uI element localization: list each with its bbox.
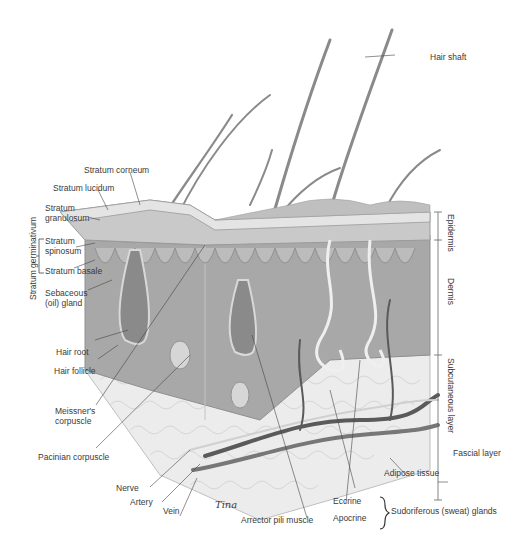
label-arrector-pili-muscle: Arrector pili muscle — [241, 515, 313, 525]
label-eccrine: Eccrine — [333, 496, 361, 506]
label-line-1: Stratum — [45, 203, 89, 213]
label-subcutaneous-layer: Subcutaneous layer — [446, 358, 456, 433]
layer-bracket — [434, 212, 442, 500]
label-stratum-lucidum: Stratum lucidum — [53, 183, 114, 193]
germinativum-bracket — [36, 237, 46, 277]
label-artery: Artery — [130, 497, 153, 507]
label-apocrine: Apocrine — [333, 513, 367, 523]
label-dermis: Dermis — [446, 278, 456, 305]
label-hair-shaft: Hair shaft — [430, 52, 466, 62]
label-stratum-spinosum: Stratum spinosum — [45, 236, 81, 256]
sudoriferous-brace — [380, 497, 389, 529]
label-line-1: Stratum — [45, 236, 81, 246]
label-meissners-corpuscle: Meissner's corpuscle — [55, 406, 95, 426]
label-line-2: (oil) gland — [45, 298, 88, 308]
label-nerve: Nerve — [116, 483, 139, 493]
pacinian-corpuscle — [231, 382, 249, 408]
artist-signature: Tina — [215, 500, 237, 510]
label-stratum-corneum: Stratum corneum — [84, 165, 149, 175]
label-stratum-basale: Stratum basale — [45, 266, 102, 276]
label-pacinian-corpuscle: Pacinian corpuscle — [38, 452, 109, 462]
label-hair-follicle: Hair follicle — [54, 366, 96, 376]
label-fascial-layer: Fascial layer — [453, 448, 501, 458]
label-line-2: granulosum — [45, 213, 89, 223]
label-line-1: Meissner's — [55, 406, 95, 416]
label-epidermis: Epidermis — [446, 214, 456, 252]
label-stratum-granulosum: Stratum granulosum — [45, 203, 89, 223]
label-adipose-tissue: Adipose tissue — [384, 468, 439, 478]
label-sebaceous-gland: Sebaceous (oil) gland — [45, 288, 88, 308]
label-vein: Vein — [163, 506, 180, 516]
label-line-2: corpuscle — [55, 416, 95, 426]
label-sudoriferous-glands: Sudoriferous (sweat) glands — [391, 506, 497, 516]
label-line-1: Sebaceous — [45, 288, 88, 298]
label-hair-root: Hair root — [56, 347, 89, 357]
label-line-2: spinosum — [45, 246, 81, 256]
